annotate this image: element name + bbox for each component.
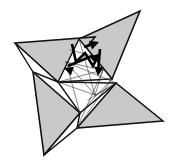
- origami-figure-container: [0, 0, 172, 165]
- origami-pinwheel-diagram: [0, 0, 172, 165]
